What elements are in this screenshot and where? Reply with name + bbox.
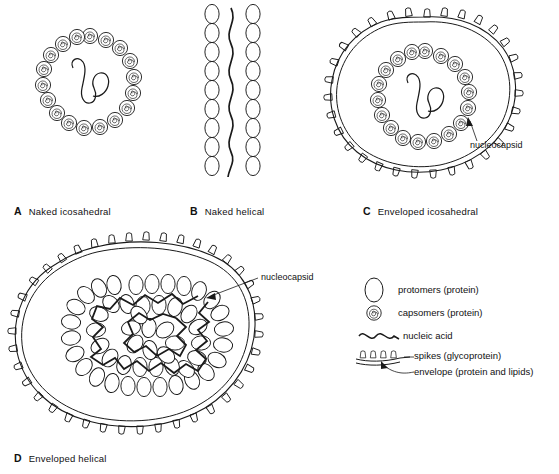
wavy-line-icon (359, 334, 399, 339)
ellipse-icon (365, 278, 383, 302)
legend-label-nucleic-acid: nucleic acid (403, 330, 453, 341)
panel-c-enveloped-icosahedral (324, 7, 524, 178)
panel-letter-b: B (190, 205, 198, 217)
panel-title-c: Enveloped icosahedral (378, 206, 478, 217)
nucleic-acid-c (407, 74, 444, 118)
panel-b-naked-helical (205, 4, 260, 177)
nucleic-acid-b (228, 8, 233, 177)
spikes-icon (360, 351, 396, 358)
nucleocapsid-c (370, 43, 476, 149)
panel-letter-a: A (14, 205, 22, 217)
membrane-icon-lower (356, 362, 400, 365)
panel-label-c: CEnveloped icosahedral (363, 205, 478, 217)
nucleic-acid-a (72, 59, 109, 103)
spikes-c (324, 7, 524, 178)
panel-label-a: ANaked icosahedral (14, 205, 111, 217)
legend-label-capsomers: capsomers (protein) (398, 307, 482, 318)
nucleocapsid-label-c: nucleocapsid (470, 140, 523, 150)
panel-title-a: Naked icosahedral (29, 206, 111, 217)
legend-leader-envelope (382, 364, 414, 373)
legend-label-protomers: protomers (protein) (398, 284, 479, 295)
virus-structure-figure (0, 0, 559, 474)
panel-letter-d: D (14, 452, 22, 464)
legend-label-spikes: spikes (glycoprotein) (414, 350, 501, 361)
panel-label-d: DEnveloped helical (14, 452, 107, 464)
nucleocapsid-d (61, 274, 235, 396)
legend-arrow-envelope (381, 361, 388, 369)
panel-d-enveloped-helical (8, 232, 264, 435)
spiral-icon (367, 306, 381, 320)
protomer-column-right (246, 4, 260, 175)
panel-letter-c: C (363, 205, 371, 217)
legend-label-envelope: envelope (protein and lipids) (414, 366, 533, 377)
protomer-column-left (205, 4, 219, 175)
panel-label-b: BNaked helical (190, 205, 264, 217)
panel-a-naked-icosahedral (35, 28, 141, 135)
panel-title-b: Naked helical (205, 206, 265, 217)
capsid-shell-a (35, 28, 141, 135)
panel-title-d: Enveloped helical (29, 453, 107, 464)
nucleocapsid-label-d: nucleocapsid (261, 272, 314, 282)
